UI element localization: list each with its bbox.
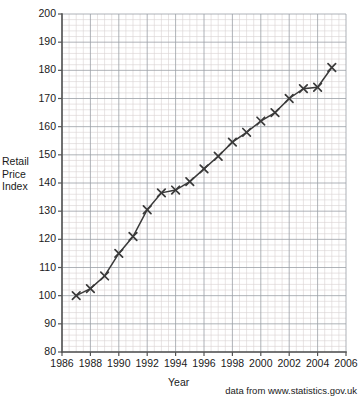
y-axis-tick-label: 120 — [30, 233, 56, 244]
y-axis-tick-label: 170 — [30, 93, 56, 104]
x-axis-tick-label: 2006 — [331, 358, 361, 369]
y-axis-tick-label: 200 — [30, 8, 56, 19]
y-axis-tick-label: 150 — [30, 149, 56, 160]
x-axis-tick-label: 1992 — [132, 358, 162, 369]
x-axis-tick-label: 1988 — [75, 358, 105, 369]
x-axis-tick-label: 2002 — [274, 358, 304, 369]
y-axis-tick-label: 90 — [30, 318, 56, 329]
x-axis-tick-label: 2004 — [303, 358, 333, 369]
chart-plot-area — [0, 0, 361, 399]
y-axis-tick-label: 100 — [30, 290, 56, 301]
x-axis-tick-label: 1990 — [104, 358, 134, 369]
y-axis-tick-label: 140 — [30, 177, 56, 188]
y-axis-tick-label: 110 — [30, 262, 56, 273]
x-axis-tick-label: 1994 — [161, 358, 191, 369]
x-axis-title: Year — [168, 376, 189, 388]
source-note: data from www.statistics.gov.uk — [225, 385, 357, 396]
x-axis-tick-label: 2000 — [246, 358, 276, 369]
x-axis-tick-label: 1996 — [189, 358, 219, 369]
y-axis-tick-label: 160 — [30, 121, 56, 132]
y-axis-tick-label: 80 — [30, 346, 56, 357]
y-axis-tick-label: 180 — [30, 64, 56, 75]
y-axis-tick-label: 130 — [30, 205, 56, 216]
x-axis-tick-label: 1998 — [217, 358, 247, 369]
y-axis-tick-label: 190 — [30, 36, 56, 47]
chart-container: Retail Price Index Year data from www.st… — [0, 0, 361, 399]
x-axis-tick-label: 1986 — [47, 358, 77, 369]
